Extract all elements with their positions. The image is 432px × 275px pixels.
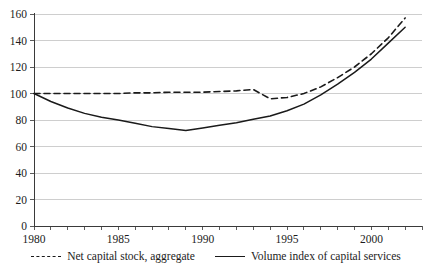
legend-swatch-solid-icon [215,256,245,257]
x-tick-label: 2000 [360,233,383,245]
y-tick-label: 20 [16,194,28,206]
series-line-volume-index [34,27,405,130]
legend-item-volume-index: Volume index of capital services [215,250,401,262]
y-tick-label: 100 [10,88,28,100]
chart-figure: 020406080100120140160 198019851990199520… [0,0,432,275]
y-axis-ticks-group [30,14,34,226]
gridlines-group [34,14,422,200]
data-series-group [34,18,405,131]
y-tick-label: 140 [10,35,28,47]
line-chart-plot: 020406080100120140160 198019851990199520… [0,0,432,275]
x-tick-label: 1990 [191,233,214,245]
legend-item-net-capital-stock: Net capital stock, aggregate [31,250,195,262]
axis-lines-group [34,13,422,226]
series-line-net-capital-stock [34,18,405,99]
y-tick-label: 160 [10,8,28,20]
y-tick-label: 0 [21,220,27,232]
legend-label-volume-index: Volume index of capital services [251,250,401,262]
y-tick-label: 120 [10,61,28,73]
legend-swatch-dashed-icon [31,256,61,257]
chart-legend: Net capital stock, aggregate Volume inde… [0,250,432,262]
y-axis-tick-labels: 020406080100120140160 [10,8,28,232]
x-tick-label: 1980 [23,233,46,245]
x-axis-tick-labels: 19801985199019952000 [23,233,384,245]
legend-label-net-capital-stock: Net capital stock, aggregate [67,250,195,262]
x-tick-label: 1995 [276,233,299,245]
x-axis-ticks-group [34,226,422,230]
y-tick-label: 40 [16,167,28,179]
y-tick-label: 60 [16,141,28,153]
x-tick-label: 1985 [107,233,130,245]
y-tick-label: 80 [16,114,28,126]
